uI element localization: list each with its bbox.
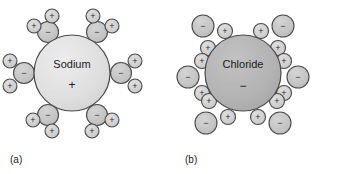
hydrogen-charge-label: + xyxy=(30,115,35,125)
ion-name-label: Sodium xyxy=(53,58,90,70)
hydrogen-charge-label: + xyxy=(206,96,211,106)
hydrogen-atom: + xyxy=(105,113,119,127)
hydrogen-atom: + xyxy=(3,79,17,93)
oxygen-charge-label: − xyxy=(94,27,99,37)
oxygen-atom: − xyxy=(111,63,132,84)
ion-charge-label: + xyxy=(68,78,75,92)
hydrogen-charge-label: + xyxy=(274,96,279,106)
hydrogen-charge-label: + xyxy=(258,26,263,36)
hydrogen-charge-label: + xyxy=(89,126,94,136)
hydrogen-atom: + xyxy=(221,110,236,125)
hydrogen-charge-label: + xyxy=(7,81,12,91)
hydrogen-atom: + xyxy=(254,24,269,39)
hydrogen-charge-label: + xyxy=(222,26,227,36)
hydrogen-atom: + xyxy=(26,113,40,127)
oxygen-atom: − xyxy=(14,63,35,84)
hydrogen-charge-label: + xyxy=(132,56,137,66)
hydrogen-atom: + xyxy=(128,79,142,93)
hydrogen-charge-label: + xyxy=(205,43,210,53)
oxygen-atom: − xyxy=(87,105,108,126)
oxygen-charge-label: − xyxy=(94,110,99,120)
hydrogen-charge-label: + xyxy=(109,115,114,125)
oxygen-charge-label: − xyxy=(277,118,282,128)
oxygen-charge-label: − xyxy=(45,110,50,120)
hydrogen-atom: + xyxy=(86,9,100,23)
oxygen-atom: − xyxy=(272,15,294,37)
hydrogen-charge-label: + xyxy=(225,112,230,122)
hydration-figure-svg: −++−++−++−++−++−++Sodium+ −++−++−++−++−+… xyxy=(0,0,341,174)
oxygen-charge-label: − xyxy=(200,21,205,31)
hydrogen-charge-label: + xyxy=(199,56,204,66)
hydrogen-charge-label: + xyxy=(49,11,54,21)
hydrogen-charge-label: + xyxy=(255,112,260,122)
oxygen-charge-label: − xyxy=(118,68,123,78)
hydrogen-charge-label: + xyxy=(109,21,114,31)
hydrogen-charge-label: + xyxy=(281,56,286,66)
oxygen-charge-label: − xyxy=(203,118,208,128)
hydrogen-atom: + xyxy=(45,124,59,138)
ion-charge-label: − xyxy=(239,79,246,93)
ion-sphere: Sodium+ xyxy=(34,35,110,111)
hydrogen-charge-label: + xyxy=(132,81,137,91)
hydrogen-charge-label: + xyxy=(7,56,12,66)
hydrogen-charge-label: + xyxy=(49,126,54,136)
oxygen-atom: − xyxy=(269,112,291,134)
oxygen-charge-label: − xyxy=(185,72,190,82)
hydrogen-charge-label: + xyxy=(90,11,95,21)
ion-name-label: Chloride xyxy=(223,58,264,70)
oxygen-atom: − xyxy=(177,66,199,88)
oxygen-charge-label: − xyxy=(280,21,285,31)
oxygen-charge-label: − xyxy=(45,27,50,37)
oxygen-atom: − xyxy=(287,66,309,88)
oxygen-atom: − xyxy=(195,112,217,134)
ion-sphere: Chloride− xyxy=(205,35,281,111)
hydrogen-atom: + xyxy=(85,124,99,138)
ion-circle xyxy=(34,35,110,111)
ion-circle xyxy=(205,35,281,111)
figure-root: −++−++−++−++−++−++Sodium+ −++−++−++−++−+… xyxy=(0,0,341,174)
oxygen-charge-label: − xyxy=(295,72,300,82)
hydrogen-atom: + xyxy=(251,110,266,125)
hydrogen-atom: + xyxy=(27,19,41,33)
oxygen-charge-label: − xyxy=(21,68,26,78)
panel-caption: (a) xyxy=(10,154,22,165)
panel-caption: (b) xyxy=(185,154,197,165)
hydrogen-atom: + xyxy=(105,19,119,33)
hydrogen-atom: + xyxy=(3,54,17,68)
oxygen-atom: − xyxy=(192,15,214,37)
hydrogen-charge-label: + xyxy=(31,21,36,31)
hydrogen-atom: + xyxy=(218,24,233,39)
hydrogen-charge-label: + xyxy=(275,43,280,53)
hydrogen-atom: + xyxy=(45,9,59,23)
hydrogen-atom: + xyxy=(128,54,142,68)
